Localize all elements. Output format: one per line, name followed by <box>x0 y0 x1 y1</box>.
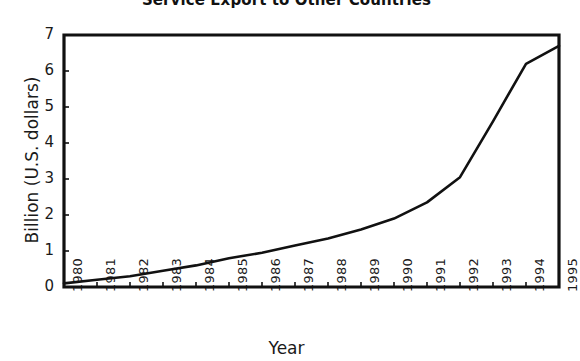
axis-frame <box>64 35 559 287</box>
axis-tick-marks <box>64 35 559 287</box>
data-series-line <box>64 46 559 284</box>
